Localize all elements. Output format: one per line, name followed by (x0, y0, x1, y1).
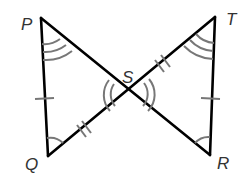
arc-angle-Q (47, 138, 63, 143)
label-P: P (21, 15, 33, 34)
arc-angle-R (195, 137, 210, 143)
label-R: R (217, 154, 229, 173)
segment-TR (210, 17, 215, 155)
segment-PQ (41, 18, 48, 156)
triple-arc-angle-P (42, 39, 72, 60)
tick-PQ (35, 98, 54, 99)
label-T: T (226, 10, 238, 29)
label-Q: Q (25, 155, 38, 174)
label-S: S (122, 68, 134, 87)
geometry-diagram: P T Q R S (0, 0, 246, 187)
tick-TR (201, 98, 220, 99)
